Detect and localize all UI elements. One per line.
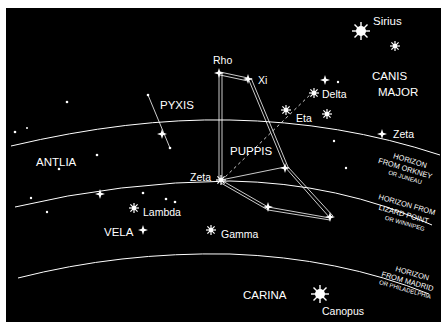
gamma-star-icon bbox=[206, 225, 216, 235]
delta-label: Delta bbox=[322, 88, 347, 100]
vela-label: VELA bbox=[104, 226, 134, 238]
rho-label: Rho bbox=[213, 54, 232, 66]
star-icon bbox=[320, 75, 330, 85]
star-chart: PYXIS ANTLIA PUPPIS VELA CANIS MAJOR CAR… bbox=[0, 0, 447, 329]
canopus-label: Canopus bbox=[322, 305, 364, 317]
rho-star-icon bbox=[214, 68, 224, 78]
pyxis-label: PYXIS bbox=[160, 99, 194, 111]
xi-label: Xi bbox=[258, 74, 267, 86]
eta-label: Eta bbox=[296, 112, 312, 124]
eta-star-icon bbox=[281, 105, 291, 115]
horizon-madrid-line bbox=[18, 254, 429, 294]
puppis-dashed-line bbox=[221, 90, 315, 181]
puppis-label: PUPPIS bbox=[230, 145, 273, 157]
horizon-lizard-line bbox=[15, 181, 432, 225]
delta-star-icon bbox=[309, 88, 319, 98]
lambda-star-icon bbox=[129, 203, 139, 213]
horizon-lines bbox=[11, 120, 440, 294]
canopus-star-icon bbox=[311, 285, 329, 303]
vela-star-icon bbox=[138, 225, 148, 235]
carina-label: CARINA bbox=[243, 289, 287, 301]
major-label: MAJOR bbox=[378, 86, 418, 98]
zeta-pup-star-icon bbox=[216, 175, 226, 185]
canis-label: CANIS bbox=[372, 70, 407, 82]
zeta-cma-label: Zeta bbox=[393, 128, 414, 140]
antlia-label: ANTLIA bbox=[36, 156, 77, 168]
zeta-pup-label: Zeta bbox=[190, 171, 211, 183]
constellation-labels: PYXIS ANTLIA PUPPIS VELA CANIS MAJOR CAR… bbox=[36, 70, 418, 301]
horizon-orkney-line bbox=[11, 120, 440, 155]
star-labels: Sirius Rho Xi Delta Eta Zeta Zeta Lambda… bbox=[143, 15, 414, 317]
gamma-label: Gamma bbox=[221, 228, 259, 240]
sirius-star-icon bbox=[352, 22, 370, 40]
star-icon bbox=[322, 109, 332, 119]
star-icon bbox=[390, 41, 400, 51]
sirius-label: Sirius bbox=[373, 15, 402, 27]
xi-star-icon bbox=[243, 74, 253, 84]
lambda-label: Lambda bbox=[143, 206, 181, 218]
